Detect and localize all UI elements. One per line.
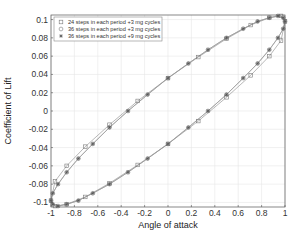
star-marker xyxy=(187,126,191,130)
star-marker xyxy=(65,170,69,174)
star-marker xyxy=(241,27,245,31)
y-tick-label: 0.02 xyxy=(31,88,48,98)
x-axis-label: Angle of attack xyxy=(138,220,198,230)
star-marker xyxy=(77,157,81,161)
star-marker xyxy=(166,142,170,146)
star-marker xyxy=(166,76,170,80)
y-tick-label: -0.08 xyxy=(29,179,49,189)
star-marker xyxy=(268,48,272,52)
y-tick-label: -0.02 xyxy=(29,124,49,134)
star-marker xyxy=(256,20,260,24)
star-marker xyxy=(51,202,55,206)
y-axis-label: Coefficient of Lift xyxy=(3,77,13,144)
star-marker xyxy=(59,34,63,38)
y-tick-label: -0.04 xyxy=(29,143,49,153)
x-tick-label: -0.2 xyxy=(137,208,152,218)
x-tick-label: -1 xyxy=(47,208,55,218)
star-marker xyxy=(77,199,81,203)
star-marker xyxy=(256,62,260,66)
star-marker xyxy=(225,36,229,40)
star-marker xyxy=(276,36,280,40)
grid-lines xyxy=(51,15,285,207)
star-marker xyxy=(51,191,55,195)
chart-canvas: -1-0.8-0.6-0.4-0.200.20.40.60.81 -0.1-0.… xyxy=(0,0,298,239)
y-tick-label: 0.1 xyxy=(36,15,48,25)
y-tick-label: 0.08 xyxy=(31,33,48,43)
x-tick-label: -0.4 xyxy=(114,208,129,218)
star-marker xyxy=(126,170,130,174)
x-tick-label: -0.8 xyxy=(67,208,82,218)
x-tick-label: 0.8 xyxy=(256,208,268,218)
y-tick-label: 0 xyxy=(43,106,48,116)
star-marker xyxy=(108,182,112,186)
legend-label: 24 steps in each period +3 mg cycles xyxy=(68,19,160,25)
star-marker xyxy=(108,126,112,130)
star-marker xyxy=(281,16,285,20)
star-marker xyxy=(91,142,95,146)
legend-item: 36 steps in each period +3 mg cycles xyxy=(59,26,160,32)
star-marker xyxy=(187,62,191,66)
y-tick-label: -0.1 xyxy=(33,197,48,207)
star-marker xyxy=(56,182,60,186)
star-marker xyxy=(65,202,69,206)
legend-label: 36 steps in each period +9 mg cycles xyxy=(68,33,160,39)
legend-label: 36 steps in each period +3 mg cycles xyxy=(68,26,160,32)
x-tick-label: 0.2 xyxy=(185,208,197,218)
x-tick-label: 0 xyxy=(166,208,171,218)
star-marker xyxy=(225,93,229,97)
y-tick-label: -0.06 xyxy=(29,161,49,171)
legend-item: 36 steps in each period +9 mg cycles xyxy=(59,33,160,39)
y-tick-label: 0.06 xyxy=(31,51,48,61)
star-marker xyxy=(146,93,150,97)
star-marker xyxy=(268,16,272,20)
star-marker xyxy=(241,76,245,80)
star-marker xyxy=(126,109,130,113)
star-marker xyxy=(281,27,285,31)
y-tick-label: 0.04 xyxy=(31,69,48,79)
star-marker xyxy=(91,191,95,195)
star-marker xyxy=(206,48,210,52)
x-tick-label: -0.6 xyxy=(90,208,105,218)
y-axis-ticks: -0.1-0.08-0.06-0.04-0.0200.020.040.060.0… xyxy=(29,15,53,208)
legend-item: 24 steps in each period +3 mg cycles xyxy=(59,19,160,25)
x-tick-label: 0.4 xyxy=(209,208,221,218)
star-marker xyxy=(206,109,210,113)
legend: 24 steps in each period +3 mg cycles36 s… xyxy=(54,17,162,41)
x-tick-label: 0.6 xyxy=(232,208,244,218)
star-marker xyxy=(146,157,150,161)
x-tick-label: 1 xyxy=(283,208,288,218)
